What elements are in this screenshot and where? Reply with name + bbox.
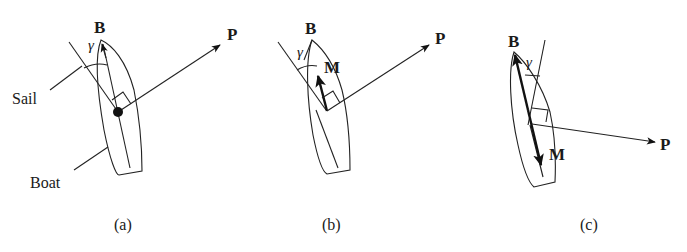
label-m: M — [324, 58, 340, 77]
label-b: B — [305, 19, 316, 38]
panel-c: B γ M P (c) — [508, 32, 670, 234]
panel-a: B γ P Sail Boat (a) — [12, 18, 237, 234]
moment-m-arrow-down — [528, 110, 541, 165]
label-p: P — [227, 25, 237, 44]
sail-leader-line — [50, 66, 82, 90]
label-gamma: γ — [88, 37, 95, 53]
boat-hull — [511, 52, 556, 187]
sail-line — [528, 40, 545, 125]
boat-leader-line — [74, 147, 108, 170]
caption-b: (b) — [322, 216, 341, 234]
right-angle-marker — [112, 92, 131, 104]
sailboat-force-diagram: B γ P Sail Boat (a) B γ M P (b) — [0, 0, 687, 252]
label-m: M — [549, 145, 565, 164]
boat-centerline — [103, 44, 130, 168]
panel-b: B γ M P (b) — [278, 19, 445, 234]
label-p: P — [435, 29, 445, 48]
angle-arc — [297, 66, 317, 71]
right-angle-marker — [532, 108, 548, 122]
label-b: B — [94, 18, 105, 37]
label-gamma: γ — [526, 54, 533, 70]
caption-a: (a) — [114, 216, 132, 234]
label-boat: Boat — [30, 174, 61, 191]
label-gamma: γ — [297, 44, 304, 60]
label-sail: Sail — [12, 90, 37, 107]
caption-c: (c) — [580, 216, 598, 234]
force-p-arrow — [118, 45, 220, 112]
force-p-arrow — [532, 124, 655, 142]
label-p: P — [660, 135, 670, 154]
center-of-effort-dot — [113, 107, 123, 117]
label-b: B — [508, 32, 519, 51]
force-p-arrow — [327, 45, 429, 111]
